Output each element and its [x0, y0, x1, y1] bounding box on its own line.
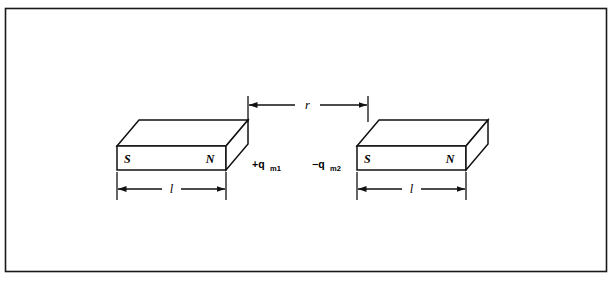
- left-magnet-south-label: S: [124, 152, 131, 166]
- left-length-label: l: [170, 182, 174, 196]
- magnet-pair-diagram: S N +q m1 S N −q m2 r: [0, 0, 611, 281]
- left-magnet-north-label: N: [205, 152, 216, 166]
- figure-container: S N +q m1 S N −q m2 r: [0, 0, 611, 281]
- right-charge-subscript: m2: [330, 164, 341, 173]
- left-charge-subscript: m1: [270, 164, 281, 173]
- right-magnet: S N: [357, 120, 488, 170]
- separation-label: r: [305, 98, 310, 112]
- right-charge-symbol: −q: [312, 158, 325, 170]
- right-magnet-south-label: S: [364, 152, 371, 166]
- figure-border: [6, 9, 607, 272]
- right-magnet-north-label: N: [445, 152, 456, 166]
- left-magnet: S N: [117, 120, 248, 170]
- left-charge-symbol: +q: [252, 158, 265, 170]
- right-length-label: l: [410, 182, 414, 196]
